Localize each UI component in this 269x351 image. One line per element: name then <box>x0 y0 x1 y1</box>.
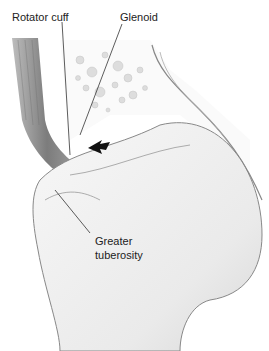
humerus <box>33 123 262 351</box>
glenoid-label: Glenoid <box>120 11 158 24</box>
shoulder-illustration <box>0 0 269 351</box>
rotator-cuff-label: Rotator cuff <box>12 11 69 24</box>
greater-tuberosity-label-line1: Greater <box>95 235 132 248</box>
greater-tuberosity-label-line2: tuberosity <box>95 249 143 262</box>
